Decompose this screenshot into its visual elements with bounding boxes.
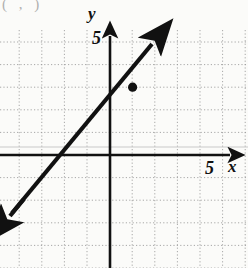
y-axis-label: y — [88, 4, 96, 24]
plotted-line — [12, 44, 152, 213]
y-axis-tick-label-5: 5 — [92, 28, 101, 49]
x-axis-tick-label-5: 5 — [205, 158, 214, 179]
marked-point — [128, 83, 137, 92]
x-axis-label: x — [228, 157, 237, 177]
graph-figure: ( , ) — [0, 0, 248, 268]
coordinate-plane-graphic — [0, 0, 248, 268]
plotted-line-lower-arrow — [10, 199, 24, 216]
